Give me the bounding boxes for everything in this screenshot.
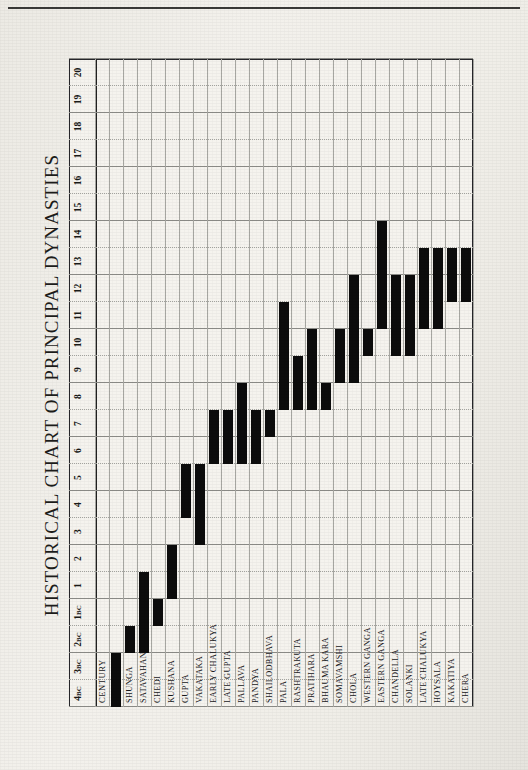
row-separator <box>459 59 460 707</box>
century-gridline <box>69 598 473 599</box>
century-tick-17: 17 <box>73 140 83 167</box>
dynasty-label-somavamshi: SOMAVAMSHI <box>335 645 344 703</box>
span-bar-hoysala <box>433 248 443 329</box>
dynasty-label-eastern-ganga: EASTERN GANGA <box>377 629 386 703</box>
century-gridline <box>69 220 473 221</box>
dynasty-label-western-ganga: WESTERN GANGA <box>363 627 372 703</box>
century-tick-3: 3 <box>73 518 83 545</box>
century-gridline <box>69 706 473 707</box>
century-tick-2bc: 2BC <box>73 626 83 653</box>
dynasty-label-kushana: KUSHANA <box>167 660 176 703</box>
dynasty-label-hoysala: HOYSALA <box>433 661 442 703</box>
century-tick-8: 8 <box>73 383 83 410</box>
dynasty-label-chandella: CHANDELLA <box>391 649 400 703</box>
row-separator <box>319 59 320 707</box>
span-bar-western-ganga <box>363 329 373 356</box>
dynasty-label-pala: PALA <box>279 681 288 703</box>
chart: HISTORICAL CHART OF PRINCIPAL DYNASTIES … <box>35 27 493 743</box>
row-separator <box>333 59 334 707</box>
chart-plot-frame <box>69 59 473 707</box>
century-tick-14: 14 <box>73 221 83 248</box>
century-tick-9: 9 <box>73 356 83 383</box>
century-gridline <box>69 139 473 140</box>
dynasty-label-chedi: CHEDI <box>153 676 162 703</box>
century-tick-12: 12 <box>73 275 83 302</box>
century-tick-6: 6 <box>73 437 83 464</box>
century-gridline <box>69 544 473 545</box>
century-tick-18: 18 <box>73 113 83 140</box>
century-tick-13: 13 <box>73 248 83 275</box>
row-separator <box>291 59 292 707</box>
chart-title: HISTORICAL CHART OF PRINCIPAL DYNASTIES <box>41 27 63 743</box>
span-bar-pala <box>279 302 289 410</box>
span-bar-chandella <box>391 275 401 356</box>
century-gridline <box>69 490 473 491</box>
span-bar-rashtrakuta <box>293 356 303 410</box>
span-bar-vakataka <box>195 464 205 545</box>
century-tick-10: 10 <box>73 329 83 356</box>
row-separator <box>263 59 264 707</box>
row-separator <box>151 59 152 707</box>
span-bar-pratihara <box>307 329 317 410</box>
span-bar-chedi <box>153 599 163 626</box>
century-gridline <box>69 112 473 113</box>
century-gridline <box>69 463 473 464</box>
century-tick-11: 11 <box>73 302 83 329</box>
span-bar-somavamshi <box>335 329 345 383</box>
row-separator <box>123 59 124 707</box>
span-bar-gupta <box>181 464 191 518</box>
century-tick-1bc: 1BC <box>73 599 83 626</box>
span-bar-pallava <box>237 383 247 464</box>
century-tick-4: 4 <box>73 491 83 518</box>
dynasty-label-chola: CHOLA <box>349 673 358 703</box>
century-gridline <box>69 247 473 248</box>
row-separator <box>207 59 208 707</box>
span-bar-kakatiya <box>447 248 457 302</box>
century-gridline <box>69 382 473 383</box>
dynasty-label-pallava: PALLAVA <box>237 665 246 703</box>
row-separator <box>137 59 138 707</box>
span-bar-pandya <box>251 410 261 464</box>
dynasty-label-pandya: PANDYA <box>251 668 260 703</box>
century-gridline <box>69 193 473 194</box>
row-separator <box>375 59 376 707</box>
dynasty-label-rashtrakuta: RASHTRAKUTA <box>293 638 302 703</box>
dynasty-label-shailodbhava: SHAILODBHAVA <box>265 635 274 703</box>
row-separator <box>235 59 236 707</box>
span-bar-shunga <box>125 626 135 653</box>
century-tick-16: 16 <box>73 167 83 194</box>
dynasty-label-vakataka: VAKATAKA <box>195 656 204 703</box>
century-tick-1: 1 <box>73 572 83 599</box>
row-separator <box>389 59 390 707</box>
span-bar-kushana <box>167 545 177 599</box>
span-bar-bhauma-kara <box>321 383 331 410</box>
dynasty-label-pratihara: PRATIHARA <box>307 653 316 703</box>
span-bar-chera <box>461 248 471 302</box>
row-separator <box>305 59 306 707</box>
century-tick-19: 19 <box>73 86 83 113</box>
row-separator <box>473 59 474 707</box>
dynasty-label-chera: CHERA <box>461 673 470 703</box>
century-gridline <box>69 571 473 572</box>
row-separator <box>109 59 110 707</box>
century-gridline <box>69 166 473 167</box>
span-bar-maurya <box>111 653 121 707</box>
scanned-page: HISTORICAL CHART OF PRINCIPAL DYNASTIES … <box>0 0 528 770</box>
century-gridline <box>69 58 473 59</box>
row-separator <box>179 59 180 707</box>
span-bar-late-chalukya <box>419 248 429 329</box>
century-tick-5: 5 <box>73 464 83 491</box>
dynasty-label-satavahana: SATAVAHANA <box>139 646 148 703</box>
century-tick-3bc: 3BC <box>73 653 83 680</box>
span-bar-late-gupta <box>223 410 233 464</box>
span-bar-satavahana <box>139 572 149 653</box>
century-tick-7: 7 <box>73 410 83 437</box>
row-separator <box>417 59 418 707</box>
row-separator <box>361 59 362 707</box>
row-separator <box>403 59 404 707</box>
rotated-chart-container: HISTORICAL CHART OF PRINCIPAL DYNASTIES … <box>35 27 493 743</box>
row-separator <box>277 59 278 707</box>
row-separator <box>445 59 446 707</box>
span-bar-early-chalukya <box>209 410 219 464</box>
row-separator <box>193 59 194 707</box>
